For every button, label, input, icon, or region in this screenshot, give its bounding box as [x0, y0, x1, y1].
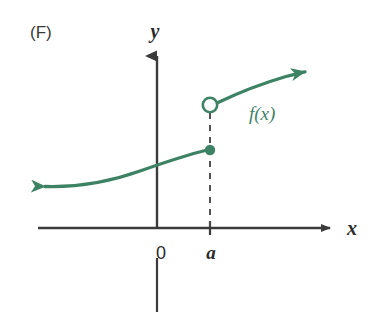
y-axis-label: y — [149, 20, 160, 43]
x-axis-label: x — [346, 217, 357, 239]
function-curve-group — [45, 72, 305, 187]
function-label: f(x) — [249, 103, 275, 125]
curve-left-branch — [45, 150, 207, 187]
panel-label: (F) — [30, 23, 52, 42]
closed-point-marker — [205, 145, 215, 155]
point-a-label: a — [206, 242, 216, 263]
open-point-marker — [203, 98, 217, 112]
origin-label: 0 — [156, 243, 166, 263]
function-graph-svg: (F) y x 0 a f(x) — [0, 0, 376, 331]
figure-container: (F) y x 0 a f(x) — [0, 0, 376, 331]
curve-right-branch — [218, 72, 305, 103]
